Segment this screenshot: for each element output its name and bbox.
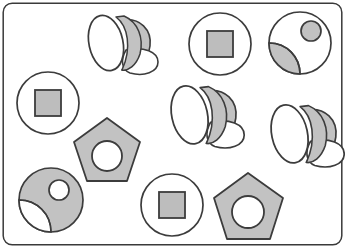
shape-scene-svg xyxy=(0,0,345,248)
inner-square xyxy=(159,192,185,218)
inner-dot xyxy=(49,180,69,200)
shape-circle-with-square-1 xyxy=(189,13,251,75)
inner-dot xyxy=(301,21,321,41)
shape-circle-with-square-2 xyxy=(17,72,79,134)
inner-square xyxy=(35,90,61,116)
pentagon-hole xyxy=(232,196,264,228)
shape-circle-with-petal-and-dot-1 xyxy=(269,12,331,74)
inner-square xyxy=(207,31,233,57)
shape-circle-with-petal-and-dot-2 xyxy=(19,168,83,232)
shape-canvas xyxy=(0,0,345,248)
pentagon-hole xyxy=(92,141,122,171)
shape-circle-with-square-3 xyxy=(141,174,203,236)
